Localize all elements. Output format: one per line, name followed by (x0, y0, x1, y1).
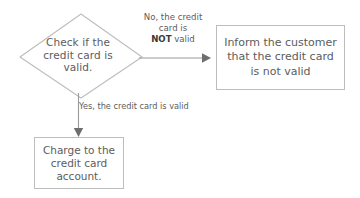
arrow-no-branch-icon (138, 48, 212, 68)
edge-label-no-bold-not: NOT (151, 34, 171, 44)
edge-label-yes: Yes, the credit card is valid (79, 101, 189, 111)
decision-diamond-shape[interactable] (18, 12, 144, 100)
flowchart-canvas: Check if the credit card is valid. No, t… (0, 0, 360, 198)
process-box-charge-card[interactable]: Charge to the credit card account. (34, 137, 124, 189)
edge-label-no: No, the credit card is NOT valid (136, 12, 210, 46)
edge-label-no-line2: card is (136, 23, 210, 34)
arrow-yes-branch-icon (68, 92, 90, 138)
process-box-inform-customer[interactable]: Inform the customer that the credit card… (216, 25, 345, 90)
process-box-charge-card-label: Charge to the credit card account. (35, 144, 123, 183)
edge-label-no-line3: NOT valid (136, 34, 210, 45)
edge-label-no-line1: No, the credit (136, 12, 210, 23)
edge-label-no-rest: valid (172, 34, 195, 44)
process-box-inform-customer-label: Inform the customer that the credit card… (217, 36, 344, 80)
